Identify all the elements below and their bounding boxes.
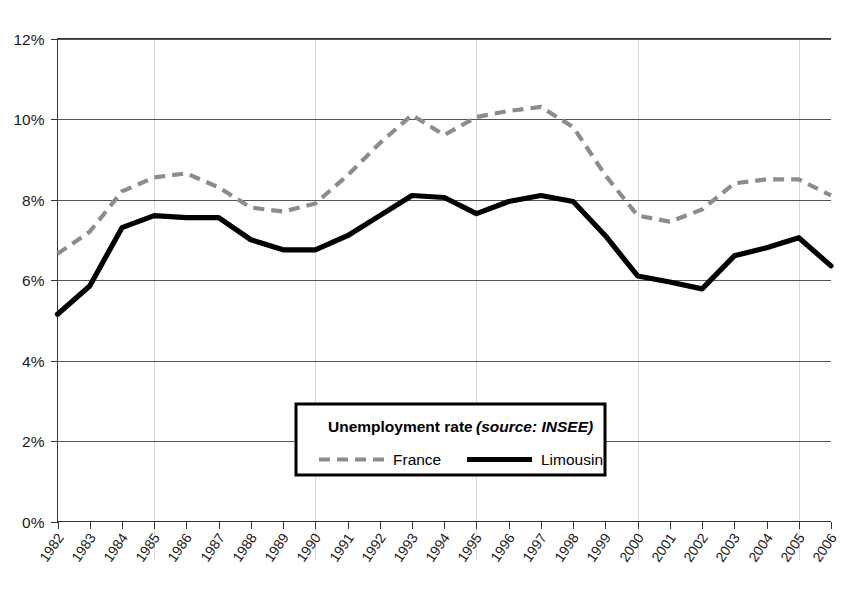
y-axis-tick-label: 4% <box>22 353 45 370</box>
y-axis-tick-label: 0% <box>22 514 45 531</box>
chart-legend: Unemployment rate (source: INSEE) France… <box>296 404 605 475</box>
legend-label-limousin: Limousin <box>541 451 603 468</box>
y-axis-tick-label: 8% <box>22 192 45 209</box>
y-axis-tick-label: 6% <box>22 272 45 289</box>
legend-source-note: (source: INSEE) <box>476 418 593 435</box>
chart-background <box>0 0 857 592</box>
legend-label-france: France <box>393 451 441 468</box>
unemployment-rate-chart: 0%2%4%6%8%10%12% 19821983198419851986198… <box>0 0 857 592</box>
y-axis-tick-label: 10% <box>13 111 44 128</box>
y-axis-tick-label: 2% <box>22 433 45 450</box>
y-axis-tick-label: 12% <box>13 31 44 48</box>
chart-canvas: 0%2%4%6%8%10%12% 19821983198419851986198… <box>0 0 857 592</box>
legend-title: Unemployment rate <box>328 418 473 435</box>
